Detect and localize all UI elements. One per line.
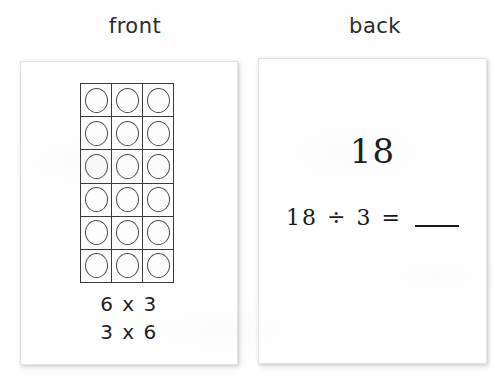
front-flashcard: 6 x 3 3 x 6	[20, 61, 238, 365]
counter-circle-icon	[116, 220, 139, 245]
equation-dividend: 18	[286, 205, 318, 230]
counter-circle-icon	[85, 88, 108, 113]
division-operator-icon: ÷	[327, 205, 347, 230]
counter-circle-icon	[147, 121, 170, 146]
counter-circle-icon	[147, 187, 170, 212]
counter-circle-icon	[85, 220, 108, 245]
array-cell	[112, 117, 143, 150]
counter-circle-icon	[85, 121, 108, 146]
division-equation: 18 ÷ 3 =	[259, 205, 486, 230]
array-cell	[112, 150, 143, 183]
multiplication-fact-first: 6 x 3	[21, 292, 237, 316]
multiplication-fact-second: 3 x 6	[21, 320, 237, 344]
array-cell	[81, 84, 112, 117]
array-cell	[143, 250, 174, 283]
counter-circle-icon	[85, 187, 108, 212]
array-cell	[81, 184, 112, 217]
array-cell	[112, 84, 143, 117]
equals-sign: =	[382, 205, 402, 230]
counter-circle-icon	[147, 88, 170, 113]
counter-circle-icon	[85, 154, 108, 179]
array-cell	[81, 117, 112, 150]
back-flashcard: 18 18 ÷ 3 =	[258, 58, 487, 364]
counter-array-grid	[80, 83, 174, 283]
counter-circle-icon	[85, 253, 108, 278]
counter-circle-icon	[116, 187, 139, 212]
answer-blank	[415, 213, 459, 227]
counter-circle-icon	[116, 154, 139, 179]
equation-divisor: 3	[357, 205, 373, 230]
array-cell	[81, 250, 112, 283]
counter-circle-icon	[147, 220, 170, 245]
counter-circle-icon	[147, 253, 170, 278]
back-card-heading: back	[300, 14, 450, 38]
array-cell	[112, 184, 143, 217]
front-card-heading: front	[60, 14, 210, 38]
array-cell	[81, 217, 112, 250]
flashcard-worksheet: front back 6 x 3 3 x 6 1	[0, 0, 493, 384]
answer-value: 18	[259, 131, 486, 171]
array-cell	[112, 217, 143, 250]
counter-circle-icon	[116, 121, 139, 146]
counter-circle-icon	[147, 154, 170, 179]
array-cell	[143, 84, 174, 117]
array-cell	[112, 250, 143, 283]
array-cell	[143, 184, 174, 217]
counter-circle-icon	[116, 88, 139, 113]
array-cell	[81, 150, 112, 183]
array-cell	[143, 117, 174, 150]
array-cell	[143, 217, 174, 250]
counter-circle-icon	[116, 253, 139, 278]
array-cell	[143, 150, 174, 183]
